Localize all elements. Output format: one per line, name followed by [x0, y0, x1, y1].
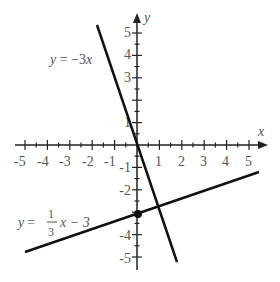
svg-text:-1: -1 [104, 154, 116, 169]
svg-text:5: 5 [245, 154, 252, 169]
label-line-1: y = −3x [48, 52, 93, 67]
svg-text:-4: -4 [119, 228, 131, 243]
svg-text:-4: -4 [37, 154, 49, 169]
svg-text:-5: -5 [119, 251, 131, 266]
x-axis-arrow-icon [258, 141, 268, 149]
x-tick-labels: -5 -4 -3 -2 -1 1 2 3 4 5 [14, 154, 252, 169]
svg-text:4: 4 [222, 154, 229, 169]
svg-text:1: 1 [48, 207, 54, 221]
svg-text:3: 3 [124, 70, 131, 85]
x-axis-label: x [257, 124, 265, 139]
line-y-third-x-minus-3 [25, 172, 259, 252]
svg-text:1: 1 [155, 154, 162, 169]
svg-text:-1: -1 [119, 160, 131, 175]
svg-text:3: 3 [48, 225, 54, 239]
y-intercept-point [134, 210, 142, 218]
svg-text:5: 5 [124, 25, 131, 40]
svg-text:-2: -2 [82, 154, 94, 169]
svg-text:x − 3: x − 3 [59, 215, 90, 230]
svg-text:4: 4 [124, 47, 131, 62]
svg-text:3: 3 [200, 154, 207, 169]
y-axis-arrow-icon [133, 13, 141, 23]
coordinate-plane: -5 -4 -3 -2 -1 1 2 3 4 5 5 4 3 1 -1 -2 -… [0, 0, 280, 282]
svg-text:-3: -3 [59, 154, 71, 169]
svg-text:y: y [16, 215, 25, 230]
svg-text:=: = [27, 215, 35, 230]
svg-text:-5: -5 [14, 154, 26, 169]
svg-text:-2: -2 [119, 183, 131, 198]
svg-text:2: 2 [178, 154, 185, 169]
y-axis-label: y [142, 10, 151, 25]
